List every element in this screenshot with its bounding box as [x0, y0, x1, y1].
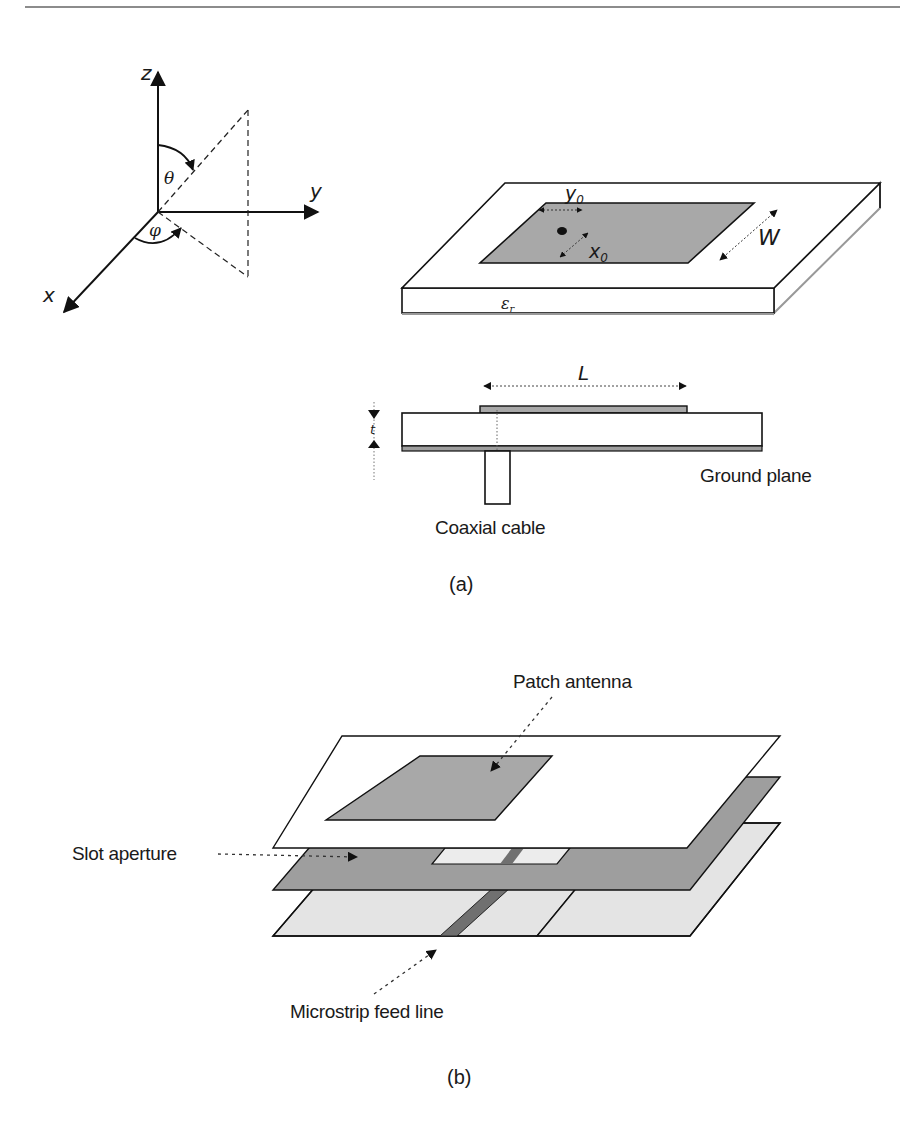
coordinate-axes: [64, 72, 318, 312]
aperture-coupled-stack: [218, 697, 780, 994]
microstrip-feed-line-label: Microstrip feed line: [290, 1001, 443, 1022]
substrate-side-view: [368, 386, 762, 504]
y-axis-label: y: [309, 179, 323, 203]
t-label: t: [370, 422, 376, 437]
z-axis-label: z: [140, 61, 152, 85]
feed-point: [557, 227, 567, 235]
theta-label: θ: [164, 168, 174, 188]
x-axis-label: x: [42, 283, 55, 307]
l-label: L: [578, 361, 589, 385]
phi-label: φ: [149, 220, 161, 240]
caption-b: (b): [447, 1066, 471, 1088]
slot-aperture-label: Slot aperture: [72, 843, 177, 864]
coaxial-cable-label: Coaxial cable: [435, 517, 545, 538]
ground-plane-label: Ground plane: [700, 465, 812, 486]
caption-a: (a): [449, 573, 473, 595]
patch-antenna-label: Patch antenna: [513, 671, 632, 692]
slot-aperture: [432, 848, 570, 864]
w-label: W: [758, 225, 781, 250]
figure-canvas: z y x θ φ y0 x0 W εr: [0, 0, 923, 1127]
substrate-perspective: [402, 183, 880, 314]
